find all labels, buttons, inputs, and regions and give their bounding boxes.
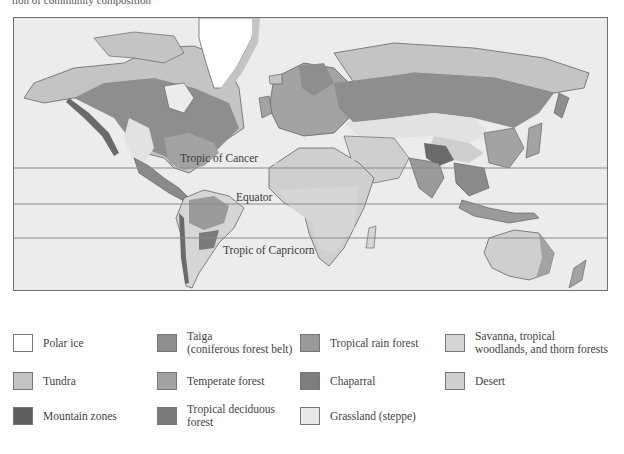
africa-savanna <box>279 186 359 253</box>
legend-item-tropical-rain-forest: Tropical rain forest <box>300 334 418 352</box>
legend-label: Savanna, tropical woodlands, and thorn f… <box>475 330 608 356</box>
legend-item-tundra: Tundra <box>13 372 76 390</box>
new-zealand <box>569 260 586 288</box>
arctic-islands <box>94 32 184 63</box>
legend-item-polar-ice: Polar ice <box>13 334 84 352</box>
legend-item-mountain-zones: Mountain zones <box>13 407 117 425</box>
legend-label: Polar ice <box>43 337 84 350</box>
world-biome-map: Tropic of Cancer Equator Tropic of Capri… <box>13 17 608 291</box>
temperate-forest-swatch <box>157 372 177 390</box>
tropic-of-cancer-label: Tropic of Cancer <box>180 152 258 164</box>
legend-item-savanna: Savanna, tropical woodlands, and thorn f… <box>445 334 608 356</box>
india <box>409 158 444 198</box>
legend-label: Mountain zones <box>43 410 117 423</box>
polar-ice-swatch <box>13 334 33 352</box>
mountain-zones-swatch <box>13 407 33 425</box>
indonesia <box>459 200 539 223</box>
kamchatka <box>554 93 569 118</box>
iceland <box>269 74 282 84</box>
legend-label: Desert <box>475 375 505 388</box>
grassland-swatch <box>300 407 320 425</box>
legend-label: Tropical deciduous forest <box>187 403 275 429</box>
legend-label: Grassland (steppe) <box>330 410 416 423</box>
legend-label: Chaparral <box>330 375 375 388</box>
legend-item-desert: Desert <box>445 372 505 390</box>
legend-label: Tropical rain forest <box>330 337 418 350</box>
equator-label: Equator <box>236 191 272 203</box>
taiga-swatch <box>157 334 177 352</box>
tropic-of-capricorn-label: Tropic of Capricorn <box>223 244 315 256</box>
legend-item-grassland: Grassland (steppe) <box>300 407 416 425</box>
tundra-swatch <box>13 372 33 390</box>
legend-label: Tundra <box>43 375 76 388</box>
chaparral-swatch <box>300 372 320 390</box>
figure-caption-fragment: tion of community composition <box>12 0 151 6</box>
madagascar <box>366 226 376 248</box>
desert-swatch <box>445 372 465 390</box>
legend-item-chaparral: Chaparral <box>300 372 375 390</box>
japan <box>526 123 542 158</box>
savanna-swatch <box>445 334 465 352</box>
east-asia-temperate <box>484 128 524 168</box>
legend-item-tropical-deciduous-forest: Tropical deciduous forest <box>157 407 275 429</box>
tropical-rain-forest-swatch <box>300 334 320 352</box>
legend-item-taiga: Taiga (coniferous forest belt) <box>157 334 292 356</box>
legend-label: Temperate forest <box>187 375 264 388</box>
legend-label: Taiga (coniferous forest belt) <box>187 330 292 356</box>
tropical-deciduous-forest-swatch <box>157 407 177 425</box>
british-isles <box>259 96 272 118</box>
legend-item-temperate-forest: Temperate forest <box>157 372 264 390</box>
